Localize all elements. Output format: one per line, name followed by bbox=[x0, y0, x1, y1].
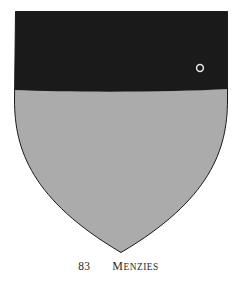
shield-chief-sable bbox=[0, 0, 237, 92]
shield-svg bbox=[0, 0, 237, 256]
caption: 83 Menzies bbox=[0, 260, 237, 280]
shield-body bbox=[0, 0, 237, 256]
shield-figure bbox=[0, 0, 237, 256]
caption-number: 83 bbox=[78, 260, 90, 273]
caption-name-initial: M bbox=[112, 259, 123, 273]
page-root: 83 Menzies bbox=[0, 0, 237, 283]
caption-name-rest: enzies bbox=[123, 262, 158, 272]
caption-name: Menzies bbox=[112, 260, 159, 274]
